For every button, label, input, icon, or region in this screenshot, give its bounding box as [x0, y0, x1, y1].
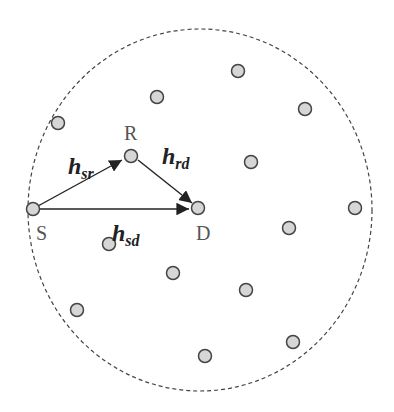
network-node: [299, 103, 312, 116]
network-node: [167, 267, 180, 280]
network-node: [71, 304, 84, 317]
relay-node: [125, 150, 138, 163]
network-node: [287, 336, 300, 349]
channel-hsd-label: hsd: [112, 220, 141, 249]
network-node: [151, 91, 164, 104]
network-node: [349, 202, 362, 215]
relay-network-diagram: S R D hsr hrd hsd: [0, 0, 394, 412]
other-nodes: [52, 65, 362, 363]
channel-hrd-label: hrd: [162, 143, 191, 172]
network-node: [199, 350, 212, 363]
network-node: [240, 284, 253, 297]
channel-hsr-label: hsr: [68, 153, 95, 182]
destination-node: [192, 202, 205, 215]
network-node: [232, 65, 245, 78]
source-node: [27, 203, 40, 216]
source-label: S: [36, 222, 47, 244]
network-node: [52, 117, 65, 130]
diagram-svg: S R D hsr hrd hsd: [0, 0, 394, 412]
relay-label: R: [124, 122, 138, 144]
network-node: [245, 156, 258, 169]
network-node: [283, 222, 296, 235]
destination-label: D: [196, 222, 210, 244]
